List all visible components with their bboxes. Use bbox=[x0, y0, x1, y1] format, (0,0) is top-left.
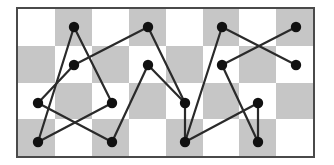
graph-node bbox=[107, 98, 117, 108]
graph-node bbox=[33, 137, 43, 147]
graph-node bbox=[180, 98, 190, 108]
graph-node bbox=[180, 137, 190, 147]
board-cell bbox=[129, 83, 167, 120]
figure-container bbox=[0, 0, 334, 165]
board-cell bbox=[166, 9, 204, 46]
board-cell bbox=[92, 9, 130, 46]
board-cell bbox=[276, 119, 314, 156]
graph-node bbox=[217, 60, 227, 70]
graph-node bbox=[253, 137, 263, 147]
graph-node bbox=[291, 22, 301, 32]
graph-node bbox=[143, 22, 153, 32]
checkerboard-graph-figure bbox=[0, 0, 334, 165]
graph-node bbox=[253, 98, 263, 108]
graph-node bbox=[33, 98, 43, 108]
graph-node bbox=[217, 22, 227, 32]
graph-node bbox=[69, 22, 79, 32]
board-cell bbox=[203, 119, 241, 156]
board-cell bbox=[92, 46, 130, 83]
graph-node bbox=[143, 60, 153, 70]
board-cell bbox=[18, 46, 56, 83]
board-cell bbox=[276, 83, 314, 120]
board-cell bbox=[18, 9, 56, 46]
graph-node bbox=[291, 60, 301, 70]
graph-node bbox=[107, 137, 117, 147]
board-cell bbox=[55, 119, 93, 156]
board-cell bbox=[129, 119, 167, 156]
board-cell bbox=[166, 46, 204, 83]
graph-node bbox=[69, 60, 79, 70]
